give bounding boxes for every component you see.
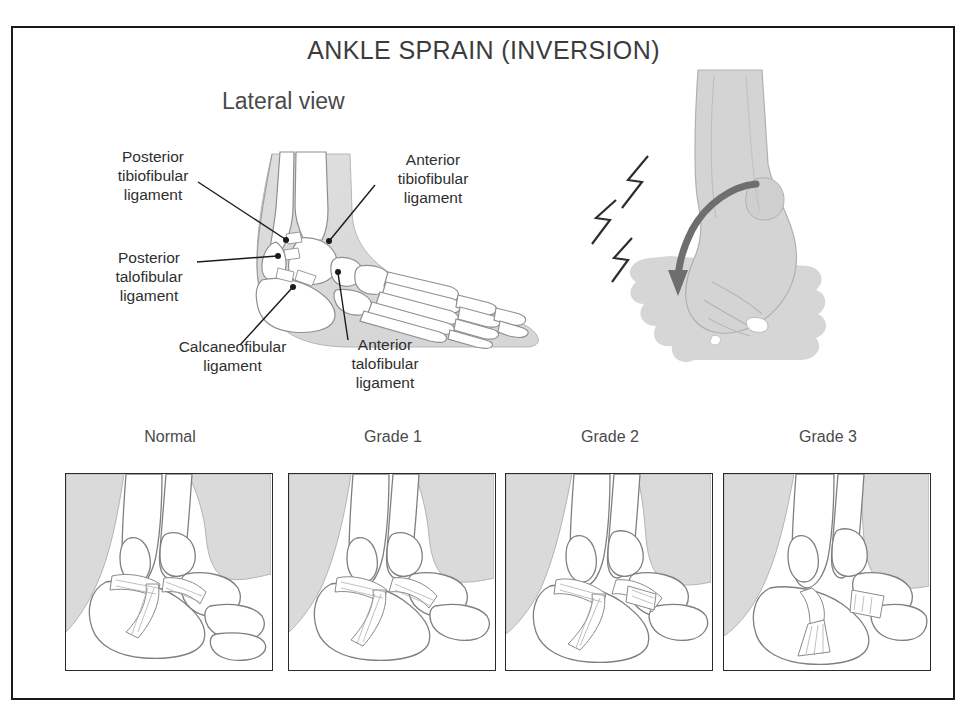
page-title: ANKLE SPRAIN (INVERSION) [0,36,967,65]
annotation-calcaneofibular-ligament: Calcaneofibular ligament [150,338,315,376]
grade-caption-normal: Normal [65,428,275,446]
annotation-posterior-tibiofibular-ligament: Posterior tibiofibular ligament [88,148,218,205]
grade-panel-normal-illustration [66,474,271,669]
grade-caption-grade-1: Grade 1 [288,428,498,446]
annotation-anterior-tibiofibular-ligament: Anterior tibiofibular ligament [368,151,498,208]
grade-panel-grade-1 [288,473,496,671]
annotation-posterior-talofibular-ligament: Posterior talofibular ligament [84,249,214,306]
grade-panel-grade-1-illustration [289,474,494,669]
leg-and-foot [686,70,797,345]
grade-panel-grade-2 [505,473,713,671]
grade-panel-grade-3 [723,473,931,671]
grade-panel-grade-2-illustration [506,474,711,669]
grade-panel-normal [65,473,273,671]
annotation-anterior-talofibular-ligament: Anterior talofibular ligament [320,336,450,393]
grade-caption-grade-3: Grade 3 [723,428,933,446]
grade-caption-grade-2: Grade 2 [505,428,715,446]
inversion-mechanism-illustration [590,68,870,378]
ankle-sprain-figure: ANKLE SPRAIN (INVERSION) Lateral view [0,0,967,715]
grade-panel-grade-3-illustration [724,474,929,669]
lateral-view-label: Lateral view [222,88,345,115]
